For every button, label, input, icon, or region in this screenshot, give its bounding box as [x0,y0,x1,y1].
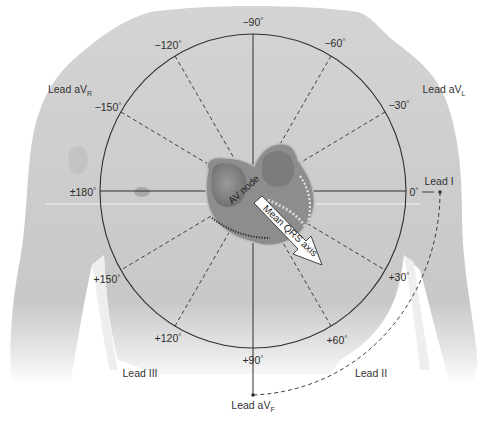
angle-label-180: ±180 [70,187,97,198]
angle-label-minus-120: −120 [155,40,182,51]
lead-i-dot [438,190,442,194]
angle-label-minus-90: −90 [242,17,263,28]
angle-label-plus-30: +30 [388,272,409,283]
hexaxial-diagram: −90 −60 −30 0 +30 +60 +90 +120 +150 ±180… [0,0,484,426]
lead-iii-label: Lead III [122,368,157,379]
lead-i-label: Lead I [424,176,453,187]
angle-label-minus-30: −30 [388,100,409,111]
lead-avf-dot [251,393,255,397]
angle-label-plus-90: +90 [242,355,263,366]
angle-label-plus-150: +150 [94,274,121,285]
lead-avl-label: Lead aVL [422,84,465,97]
angle-label-plus-120: +120 [155,333,182,344]
angle-label-plus-60: +60 [326,335,347,346]
angle-label-minus-150: −150 [95,102,122,113]
angle-label-minus-60: −60 [324,38,345,49]
lead-avf-label: Lead aVF [231,400,274,413]
angle-label-0: 0 [409,187,418,198]
lead-avr-label: Lead aVR [48,84,92,97]
nipple-shadow [134,187,150,197]
lead-ii-label: Lead II [355,368,387,379]
